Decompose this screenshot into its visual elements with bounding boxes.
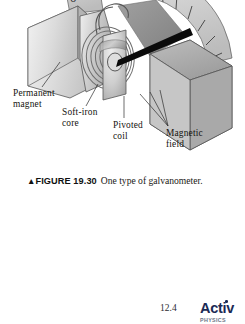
textbook-page: 10 0 (0, 0, 245, 324)
figure-caption: ▲FIGURE 19.30 One type of galvanometer. (27, 170, 239, 188)
footer-section-number: 12.4 (160, 303, 177, 313)
caption-description: One type of galvanometer. (101, 175, 203, 186)
activ-cursor-dot-icon (225, 300, 228, 303)
caption-figure-number: FIGURE 19.30 (35, 176, 96, 186)
callout-label-magnetic-field: Magnetic field (166, 128, 203, 149)
activphysics-logo: Activ PHYSICS (198, 298, 245, 324)
scale-fragment-label: 0 (70, 0, 77, 5)
activ-wordmark: Activ (200, 300, 234, 316)
activ-subword: PHYSICS (200, 317, 226, 323)
callout-label-pivoted-coil: Pivoted coil (113, 120, 143, 141)
callout-label-soft-iron-core: Soft-iron core (62, 107, 98, 128)
callout-label-permanent-magnet: Permanent magnet (13, 88, 55, 109)
